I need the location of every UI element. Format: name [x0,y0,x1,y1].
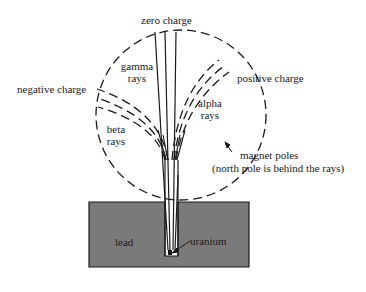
beta-label: betarays [96,124,136,147]
positive-charge-label: positive charge [237,73,304,84]
zero-charge-label: zero charge [141,15,192,26]
magnet-pole-arrow [225,142,232,152]
magnet-poles-label: magnet poles [240,150,298,161]
uranium-label: uranium [190,236,227,247]
lead-label: lead [115,237,133,248]
negative-charge-label: negative charge [17,84,86,95]
gamma-label: gammarays [117,61,157,84]
alpha-label: alpharays [190,98,230,121]
uranium-sample [168,250,172,255]
diagram-canvas [0,0,366,292]
north-pole-note: (north pole is behind the rays) [212,163,344,174]
